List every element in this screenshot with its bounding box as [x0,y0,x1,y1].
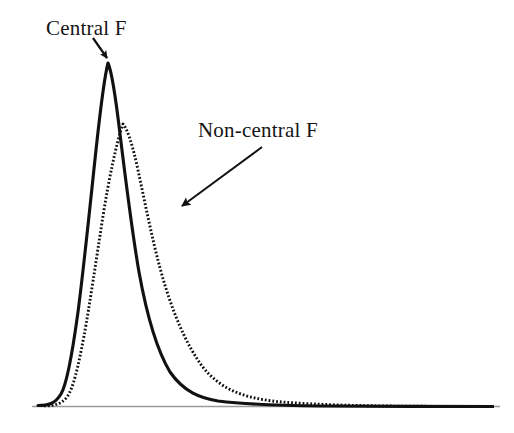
distribution-plot [0,0,514,433]
central-f-curve [38,63,492,407]
noncentral-f-curve [44,124,494,407]
central-f-arrow [93,38,107,58]
f-distribution-figure: Central F Non-central F [0,0,514,433]
central-f-label: Central F [46,18,127,39]
noncentral-f-arrow [182,147,262,206]
noncentral-f-label: Non-central F [198,120,318,141]
